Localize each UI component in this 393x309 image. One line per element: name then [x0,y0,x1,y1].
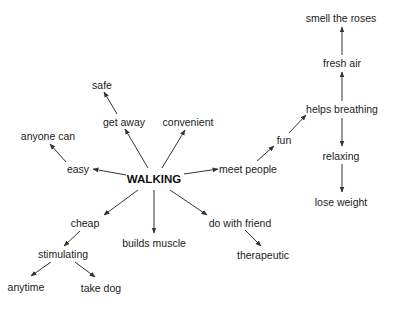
node-stimulating: stimulating [38,249,88,260]
edge-easy-to-anyone-can [50,144,66,162]
edge-walking-to-do-with-friend [170,190,207,215]
edge-walking-to-meet-people [184,169,218,174]
node-fun: fun [277,135,292,146]
edge-walking-to-convenient [162,130,185,168]
node-therapeutic: therapeutic [237,250,289,261]
edge-get-away-to-safe [104,92,117,114]
node-smell-the-roses: smell the roses [306,13,377,24]
edge-stimulating-to-anytime [31,262,51,276]
edge-walking-to-get-away [125,129,148,168]
mind-map-canvas: WALKING easyanyone canget awaysafeconven… [0,0,393,309]
node-helps-breathing: helps breathing [306,104,378,115]
node-cheap: cheap [71,218,100,229]
node-anyone-can: anyone can [21,131,75,142]
node-lose-weight: lose weight [315,197,368,208]
node-take-dog: take dog [81,283,121,294]
edge-walking-to-cheap [104,190,138,215]
node-get-away: get away [103,117,145,128]
edge-do-with-friend-to-therapeutic [245,230,261,246]
node-builds-muscle: builds muscle [122,238,186,249]
edge-fun-to-helps-breathing [289,115,306,133]
node-easy: easy [67,164,89,175]
node-do-with-friend: do with friend [209,218,271,229]
node-safe: safe [92,80,112,91]
edge-cheap-to-stimulating [64,231,80,246]
root-node-walking: WALKING [127,174,181,186]
edge-meet-people-to-fun [257,146,274,161]
node-fresh-air: fresh air [323,58,361,69]
node-relaxing: relaxing [323,151,360,162]
node-convenient: convenient [163,117,214,128]
edge-stimulating-to-take-dog [75,262,95,277]
node-meet-people: meet people [219,164,277,175]
node-anytime: anytime [8,282,45,293]
edge-walking-to-easy [93,169,126,175]
